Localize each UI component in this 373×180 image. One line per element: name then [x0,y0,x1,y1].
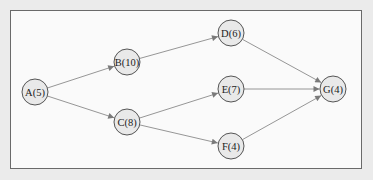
nodes-group: A(5)B(10)C(8)D(6)E(7)F(4)G(4) [22,20,346,159]
node-label: E(7) [222,84,241,96]
node-e: E(7) [218,76,244,102]
node-g: G(4) [320,76,346,102]
edge-b-to-d [140,37,219,59]
node-label: D(6) [221,28,241,40]
node-b: B(10) [114,49,140,75]
edge-c-to-f [140,125,218,143]
edge-a-to-b [47,66,114,88]
edge-a-to-c [47,96,114,118]
node-d: D(6) [218,20,244,46]
node-label: G(4) [323,84,343,96]
edge-f-to-g [242,96,321,140]
node-label: B(10) [115,57,140,69]
node-label: F(4) [222,141,241,153]
node-label: C(8) [117,117,137,129]
node-label: A(5) [25,87,45,99]
edge-d-to-g [242,39,321,82]
activity-network-diagram: A(5)B(10)C(8)D(6)E(7)F(4)G(4) [0,0,373,180]
edges-group [47,37,321,143]
node-a: A(5) [22,79,48,105]
node-c: C(8) [114,109,140,135]
edge-c-to-e [139,93,218,118]
node-f: F(4) [218,133,244,159]
